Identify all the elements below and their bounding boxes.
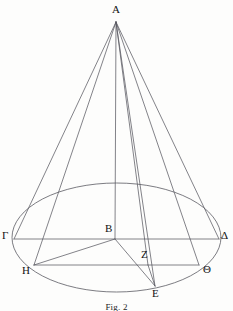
segment-apex-to-delta	[116, 22, 219, 239]
point-label-Theta: Θ	[203, 264, 211, 275]
segment-apex-to-theta	[116, 22, 199, 265]
point-label-E: E	[152, 288, 159, 299]
cone-diagram	[0, 0, 233, 311]
point-label-H: H	[22, 265, 30, 276]
segment-apex-axis-to-b	[115, 22, 116, 239]
segment-b-to-h	[34, 239, 115, 265]
segment-apex-to-gamma	[14, 22, 116, 239]
point-label-A: A	[112, 4, 120, 15]
segment-apex-to-e	[116, 22, 155, 286]
point-label-Gamma: Γ	[2, 230, 8, 241]
point-label-Delta: Δ	[221, 230, 228, 241]
point-label-Z: Z	[141, 249, 148, 260]
segment-apex-to-z	[116, 22, 148, 265]
figure-container: A B Γ Δ H Θ Z E Fig. 2	[0, 0, 233, 311]
segment-apex-to-h	[34, 22, 116, 265]
segment-z-to-e	[148, 265, 155, 286]
point-label-B: B	[105, 223, 112, 234]
figure-caption: Fig. 2	[0, 302, 233, 311]
